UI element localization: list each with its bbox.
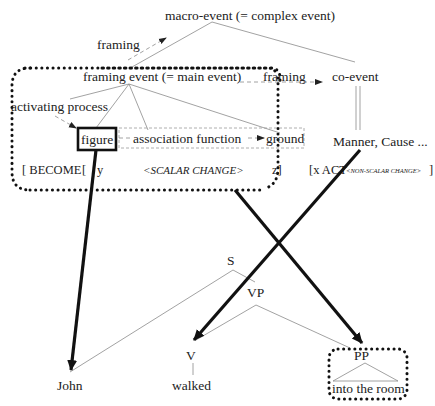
walked-label: walked [172,378,211,393]
branch-to-ground [129,84,280,133]
y-label: y [97,163,104,177]
bracket-open-label: [ [82,163,86,177]
tree-node-VP: VP [247,285,264,300]
macro-to-co-event-line [212,22,355,62]
PP-right-line [365,363,398,381]
macro-event-label: macro-event (= complex event) [165,8,335,23]
close-bracket-label: ] [429,163,433,177]
tree-node-S: S [227,253,235,268]
tree-node-PP: PP [354,348,369,363]
figure-label: figure [81,132,113,147]
association-function-label: association function [133,131,242,146]
framing-event-label: framing event (= main event) [83,69,241,84]
branch-to-activating-process [70,84,129,99]
become-label: [ BECOME [22,163,82,177]
john-label: John [57,378,83,393]
tree-node-V: V [186,348,196,363]
activating-process-label: activating process [11,99,108,114]
scalar-change-label: <SCALAR CHANGE> [143,164,244,176]
VP-to-V-line [196,305,256,340]
figure-to-john-arrow [71,150,96,370]
scalar-change-to-PP-arrow [235,190,362,343]
branch-to-association-function [129,84,148,130]
manner-cause-label: Manner, Cause ... [333,134,428,149]
macro-to-framing-event-line [132,22,212,67]
ground-label: ground [266,131,304,146]
z-label: z] [272,163,282,177]
co-event-label: co-event [332,69,379,84]
non-scalar-change-label: <NON-SCALAR CHANGE> [346,167,421,174]
event-structure-diagram: macro-event (= complex event) framing fr… [0,0,435,406]
PP-left-line [333,363,365,381]
framing-top-label: framing [97,37,140,52]
activating-process-arrow [55,116,76,128]
into-the-room-label: into the room [332,381,405,396]
